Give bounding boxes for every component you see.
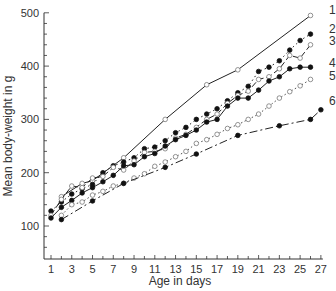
open-circle-marker	[101, 189, 106, 194]
series-labels: 123456	[329, 3, 336, 108]
x-tick-label: 25	[294, 263, 306, 275]
open-circle-marker	[267, 104, 272, 109]
series-label: 6	[329, 94, 336, 108]
open-circle-marker	[111, 184, 116, 189]
x-tick-label: 21	[252, 263, 264, 275]
filled-dot-marker	[308, 65, 313, 70]
series-line	[61, 79, 310, 215]
filled-dot-marker	[215, 106, 220, 111]
open-circle-marker	[246, 89, 251, 94]
filled-dot-marker	[277, 74, 282, 79]
open-circle-marker	[163, 160, 168, 165]
filled-dot-marker	[90, 199, 95, 204]
filled-dot-marker	[173, 130, 178, 135]
series-4	[49, 65, 313, 220]
filled-dot-marker	[142, 154, 147, 159]
filled-dot-marker	[308, 32, 313, 37]
y-tick-label: 100	[21, 220, 39, 232]
series-group	[49, 13, 323, 222]
open-circle-marker	[298, 56, 303, 61]
series-6	[59, 108, 323, 222]
open-circle-marker	[308, 77, 313, 82]
x-tick-label: 27	[315, 263, 327, 275]
x-tick-label: 23	[273, 263, 285, 275]
open-circle-marker	[173, 154, 178, 159]
filled-dot-marker	[90, 185, 95, 190]
filled-dot-marker	[80, 191, 85, 196]
filled-dot-marker	[153, 151, 158, 156]
y-tick-label: 200	[21, 167, 39, 179]
filled-dot-marker	[121, 163, 126, 168]
open-circle-marker	[287, 89, 292, 94]
filled-dot-marker	[267, 65, 272, 70]
x-axis-label: Age in days	[149, 274, 212, 288]
filled-dot-marker	[49, 216, 54, 221]
filled-dot-marker	[204, 120, 209, 125]
open-circle-marker	[256, 77, 261, 82]
filled-dot-marker	[132, 162, 137, 167]
filled-dot-marker	[194, 128, 199, 133]
x-tick-label: 7	[110, 263, 116, 275]
filled-dot-marker	[215, 117, 220, 122]
filled-dot-marker	[246, 96, 251, 101]
open-circle-marker	[59, 197, 64, 202]
open-circle-marker	[225, 126, 230, 131]
y-tick-label: 400	[21, 60, 39, 72]
filled-dot-marker	[163, 144, 168, 149]
line-chart: 10020030040050013579111315171921232527 1…	[0, 0, 336, 291]
open-circle-marker	[298, 84, 303, 89]
filled-dot-marker	[298, 38, 303, 43]
x-tick-label: 19	[232, 263, 244, 275]
series-1	[59, 13, 313, 199]
filled-dot-marker	[319, 108, 324, 113]
series-2	[49, 32, 313, 214]
series-label: 3	[329, 34, 336, 48]
open-circle-marker	[90, 176, 95, 181]
open-circle-marker	[184, 149, 189, 154]
filled-dot-marker	[204, 112, 209, 117]
filled-dot-marker	[287, 48, 292, 53]
open-circle-marker	[256, 112, 261, 117]
filled-dot-marker	[111, 173, 116, 178]
filled-dot-marker	[69, 192, 74, 197]
series-line	[51, 45, 311, 216]
open-circle-marker	[90, 193, 95, 198]
open-circle-marker	[111, 165, 116, 170]
y-tick-label: 500	[21, 7, 39, 19]
filled-dot-marker	[101, 179, 106, 184]
x-tick-label: 3	[69, 263, 75, 275]
filled-dot-marker	[277, 58, 282, 63]
filled-dot-marker	[236, 133, 241, 138]
filled-dot-marker	[173, 137, 178, 142]
filled-dot-marker	[277, 123, 282, 128]
filled-dot-marker	[308, 117, 313, 122]
filled-dot-marker	[163, 138, 168, 143]
filled-dot-marker	[121, 181, 126, 186]
open-circle-marker	[153, 164, 158, 169]
filled-dot-marker	[256, 88, 261, 93]
open-circle-marker	[236, 122, 241, 127]
open-circle-marker	[308, 42, 313, 47]
open-circle-marker	[163, 117, 168, 122]
x-tick-label: 17	[211, 263, 223, 275]
filled-dot-marker	[194, 152, 199, 157]
open-circle-marker	[277, 66, 282, 71]
filled-dot-marker	[298, 65, 303, 70]
filled-dot-marker	[287, 66, 292, 71]
filled-dot-marker	[59, 205, 64, 210]
open-circle-marker	[204, 137, 209, 142]
filled-dot-marker	[59, 217, 64, 222]
open-circle-marker	[194, 141, 199, 146]
series-3	[49, 42, 313, 217]
open-circle-marker	[246, 117, 251, 122]
filled-dot-marker	[267, 79, 272, 84]
open-circle-marker	[308, 13, 313, 18]
y-axis-label: Mean body-weight in g	[1, 76, 15, 197]
series-line	[61, 16, 310, 197]
open-circle-marker	[215, 132, 220, 137]
filled-dot-marker	[246, 84, 251, 89]
filled-dot-marker	[256, 69, 261, 74]
open-circle-marker	[277, 96, 282, 101]
y-tick-label: 300	[21, 113, 39, 125]
x-tick-label: 5	[89, 263, 95, 275]
